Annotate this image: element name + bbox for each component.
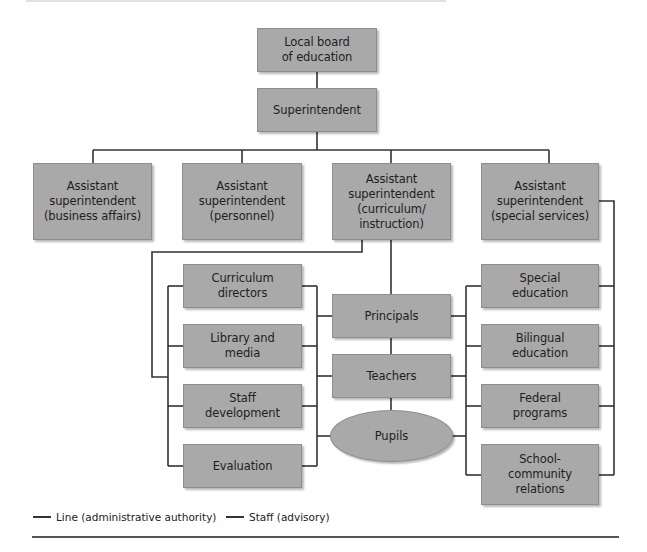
node-special-education: Special education (481, 264, 599, 308)
node-principals: Principals (332, 294, 451, 338)
legend-staff: Staff (advisory) (226, 511, 330, 523)
node-superintendent: Superintendent (257, 88, 377, 132)
node-staff-development: Staff development (183, 384, 302, 428)
node-curriculum-directors: Curriculum directors (183, 264, 302, 308)
legend-staff-label: Staff (advisory) (249, 511, 330, 523)
node-federal-programs: Federal programs (481, 384, 599, 428)
bottom-divider (32, 536, 619, 538)
line-swatch-icon (33, 516, 51, 518)
node-pupils: Pupils (330, 410, 453, 462)
legend-line: Line (administrative authority) (33, 511, 216, 523)
node-asst-business-affairs: Assistant superintendent (business affai… (33, 163, 152, 240)
node-library-media: Library and media (183, 324, 302, 368)
node-teachers: Teachers (332, 354, 451, 398)
node-asst-special-services: Assistant superintendent (special servic… (481, 163, 599, 240)
staff-swatch-icon (226, 516, 244, 518)
legend-line-label: Line (administrative authority) (56, 511, 216, 523)
node-evaluation: Evaluation (183, 444, 302, 488)
node-bilingual-education: Bilingual education (481, 324, 599, 368)
node-asst-curriculum-instruction: Assistant superintendent (curriculum/ in… (332, 163, 451, 240)
node-school-community-relations: School- community relations (481, 444, 599, 505)
node-local-board: Local board of education (257, 28, 377, 72)
node-asst-personnel: Assistant superintendent (personnel) (182, 163, 302, 240)
